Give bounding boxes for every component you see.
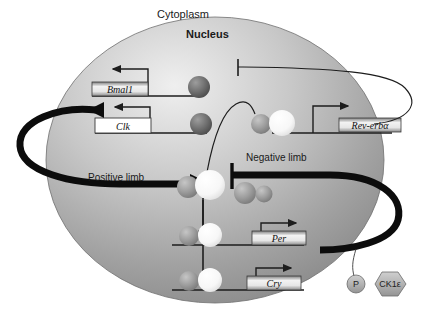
protein-sphere-cry-white <box>198 268 222 292</box>
protein-sphere-reverb-small <box>251 114 271 134</box>
protein-sphere-free-a <box>234 182 256 204</box>
protein-sphere-per-white <box>198 223 222 247</box>
gene-label-clk: Clk <box>116 121 130 132</box>
protein-sphere-clk <box>190 113 212 135</box>
label-nucleus: Nucleus <box>186 28 229 40</box>
label-negative-limb: Negative limb <box>246 152 307 163</box>
gene-label-bmal1: Bmal1 <box>107 84 133 95</box>
circadian-clock-diagram: Bmal1 Clk Rev-erbα <box>0 0 423 315</box>
gene-label-reverb: Rev-erbα <box>351 120 390 131</box>
protein-sphere-reverb-white <box>269 110 295 136</box>
label-positive-limb: Positive limb <box>88 172 144 183</box>
diagram-canvas: Bmal1 Clk Rev-erbα <box>0 0 423 315</box>
protein-sphere-free-b <box>256 186 273 203</box>
kinase-tether-line <box>353 249 356 276</box>
nucleus-ellipse <box>46 17 384 303</box>
ck1e-label: CK1ε <box>379 279 401 289</box>
protein-sphere-complex-white <box>195 170 225 200</box>
label-cytoplasm: Cytoplasm <box>157 8 209 20</box>
phosphate-label: P <box>353 279 359 289</box>
protein-sphere-per-small <box>179 226 199 246</box>
gene-label-per: Per <box>271 233 287 244</box>
protein-sphere-cry-small <box>179 271 199 291</box>
protein-sphere-bmal1 <box>188 76 210 98</box>
gene-label-cry: Cry <box>267 278 283 289</box>
